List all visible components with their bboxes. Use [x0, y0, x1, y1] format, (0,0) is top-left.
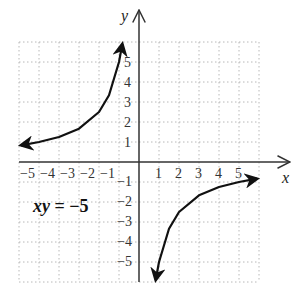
hyperbola-graph: y x −5 −4 −3 −2 −1 1 2 3 4 5 5 4 3 2 1 −…: [0, 0, 294, 289]
x-tick-label: 4: [215, 166, 222, 181]
y-tick-label: −5: [117, 254, 132, 269]
equation-equals: =: [50, 196, 69, 216]
equation-rhs: −5: [69, 196, 88, 216]
x-tick-label: −3: [60, 166, 75, 181]
x-tick-label: −5: [20, 166, 35, 181]
y-tick-label: 2: [124, 115, 131, 130]
y-tick-label: −4: [117, 234, 132, 249]
equation-lhs: xy: [32, 196, 51, 216]
x-tick-label: −4: [40, 166, 55, 181]
x-axis-label: x: [281, 169, 289, 186]
y-tick-label: −3: [117, 214, 132, 229]
y-axis-label: y: [119, 7, 129, 25]
y-tick-label: −1: [117, 174, 132, 189]
y-tick-label: 5: [124, 55, 131, 70]
equation-label: xy = −5: [32, 196, 89, 216]
x-tick-label: 1: [155, 166, 162, 181]
y-tick-label: 3: [124, 95, 131, 110]
x-tick-label: −2: [80, 166, 95, 181]
y-tick-label: 1: [124, 135, 131, 150]
y-tick-label: −2: [117, 194, 132, 209]
x-tick-label: 5: [235, 166, 242, 181]
curve-branch-right: [156, 179, 257, 280]
x-tick-label: 2: [175, 166, 182, 181]
curve-branch-left: [21, 44, 122, 145]
x-tick-label: −1: [100, 166, 115, 181]
x-tick-label: 3: [195, 166, 202, 181]
y-tick-label: 4: [124, 75, 131, 90]
